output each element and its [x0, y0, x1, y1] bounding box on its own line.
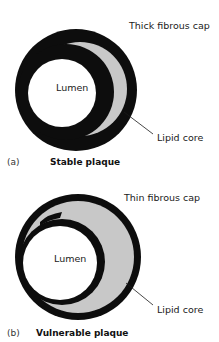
label-lipid-core: Lipid core [157, 132, 203, 143]
panel-title-vulnerable: Vulnerable plaque [36, 328, 128, 338]
panel-title-stable: Stable plaque [50, 157, 120, 167]
label-thick-fibrous-cap: Thick fibrous cap [128, 20, 210, 31]
label-lipid-core: Lipid core [157, 304, 203, 315]
panel-tag-b: (b) [7, 328, 20, 338]
lumen [28, 59, 96, 127]
label-lumen: Lumen [56, 82, 88, 93]
panel-vulnerable-plaque: Thin fibrous cap Lumen Lipid core (b) Vu… [7, 192, 203, 338]
lipid-core-leader [124, 112, 153, 134]
label-thin-fibrous-cap: Thin fibrous cap [123, 192, 200, 203]
panel-tag-a: (a) [7, 157, 20, 167]
panel-stable-plaque: Thick fibrous cap Lumen Lipid core (a) S… [7, 20, 210, 167]
label-lumen: Lumen [54, 253, 86, 264]
lipid-core-leader [126, 283, 153, 305]
plaque-diagram: Thick fibrous cap Lumen Lipid core (a) S… [0, 0, 219, 342]
